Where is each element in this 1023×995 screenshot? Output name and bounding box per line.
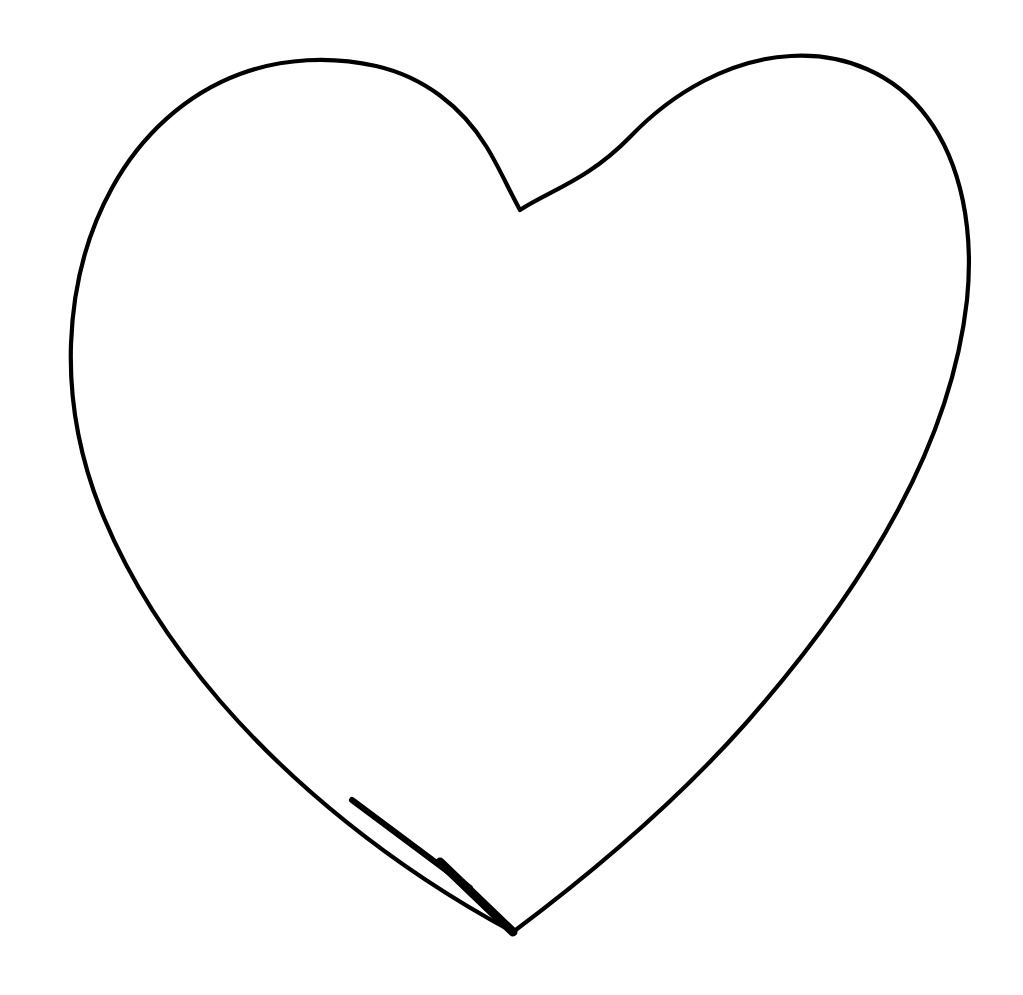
- drawing-canvas: [0, 0, 1023, 995]
- heart-drawing: [0, 0, 1023, 995]
